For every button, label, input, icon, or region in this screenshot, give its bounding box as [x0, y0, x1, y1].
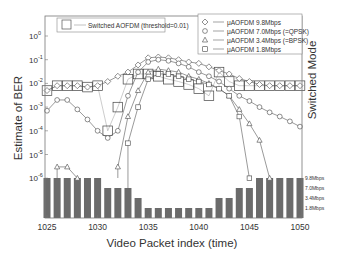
x-axis-label: Video Packet index (time) — [107, 237, 238, 249]
legend-label: μAOFDM 7.0Mbps (=QPSK) — [227, 28, 309, 36]
mode-bar — [124, 188, 131, 218]
mode-bar — [205, 208, 212, 218]
legend-switched: Switched AOFDM (threshold=0.01) — [57, 18, 189, 32]
mode-bar — [236, 188, 243, 218]
mode-bar — [74, 178, 81, 218]
series-circle — [45, 57, 303, 140]
y-tick-exponent: -3 — [38, 101, 43, 107]
mode-bar — [216, 198, 223, 218]
x-tick-label: 1040 — [189, 222, 208, 232]
y-tick-exponent: -4 — [38, 125, 43, 131]
mode-bar — [94, 178, 101, 218]
mode-bar — [135, 198, 142, 218]
mode-bar — [276, 178, 283, 218]
mode-bar — [226, 198, 233, 218]
mode-bar — [104, 188, 111, 218]
y-tick-exponent: 0 — [38, 30, 41, 36]
legend-label: μAOFDM 9.8Mbps — [227, 19, 282, 27]
mode-bar — [297, 178, 304, 218]
right-axis-label: Switched Mode — [306, 41, 318, 120]
y-tick-exponent: -1 — [38, 54, 43, 60]
mode-bar — [266, 178, 273, 218]
mode-bar — [84, 178, 91, 218]
mode-bar — [246, 188, 253, 218]
mode-bar — [155, 208, 162, 218]
ber-series — [42, 54, 305, 188]
mode-bar — [64, 178, 71, 218]
mode-bar — [286, 178, 293, 218]
mode-bar — [256, 178, 263, 218]
mode-bar — [114, 188, 121, 218]
right-tick-label: 7.0Mbps — [305, 185, 325, 191]
y-tick-exponent: -6 — [38, 172, 43, 178]
right-tick-label: 3.4Mbps — [305, 195, 325, 201]
legend-label: μAOFDM 1.8Mbps — [227, 46, 282, 54]
y-tick-exponent: -5 — [38, 149, 43, 155]
x-tick-label: 1035 — [139, 222, 158, 232]
chart-canvas: 10010-110-210-310-410-510-6 102510301035… — [0, 0, 349, 256]
y-tick-exponent: -2 — [38, 77, 43, 83]
right-axis-ticks: 9.8Mbps7.0Mbps3.4Mbps1.8Mbps — [305, 175, 325, 211]
mode-bar — [44, 178, 51, 218]
x-tick-label: 1025 — [38, 222, 57, 232]
right-tick-label: 1.8Mbps — [305, 205, 325, 211]
x-tick-label: 1045 — [240, 222, 259, 232]
series-large-square — [42, 67, 305, 135]
ber-chart: 10010-110-210-310-410-510-6 102510301035… — [0, 0, 349, 256]
right-tick-label: 9.8Mbps — [305, 175, 325, 181]
y-axis-label: Estimate of BER — [12, 76, 24, 160]
mode-bar — [165, 208, 172, 218]
legend-label: μAOFDM 3.4Mbps (=BPSK) — [227, 37, 308, 45]
x-tick-label: 1030 — [88, 222, 107, 232]
mode-bar — [185, 208, 192, 218]
legend-series: μAOFDM 9.8MbpsμAOFDM 7.0Mbps (=QPSK)μAOF… — [198, 14, 309, 54]
legend-label: Switched AOFDM (threshold=0.01) — [88, 22, 189, 30]
x-tick-label: 1050 — [291, 222, 310, 232]
switched-mode-bars — [44, 178, 304, 218]
mode-bar — [54, 178, 61, 218]
mode-bar — [175, 208, 182, 218]
